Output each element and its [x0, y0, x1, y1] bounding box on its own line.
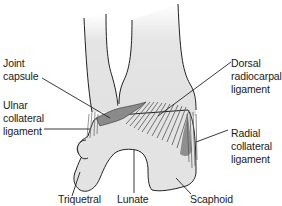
label-scaphoid: Scaphoid — [190, 193, 233, 206]
label-radial-collateral-ligament: Radial collateral ligament — [231, 127, 272, 166]
leader-radial-collateral — [196, 130, 228, 142]
carpal-bones — [74, 110, 196, 191]
label-dorsal-radiocarpal-ligament: Dorsal radiocarpal ligament — [231, 57, 282, 96]
ulna-bone — [84, 14, 118, 112]
label-joint-capsule: Joint capsule — [3, 57, 39, 83]
label-triquetral: Triquetral — [58, 193, 101, 206]
label-ulnar-collateral-ligament: Ulnar collateral ligament — [3, 99, 44, 138]
label-lunate: Lunate — [117, 193, 149, 206]
